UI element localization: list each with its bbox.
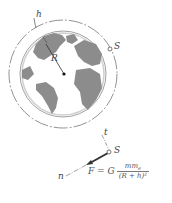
gravity-formula: F = G mme (R + h)² bbox=[88, 162, 149, 180]
label-S-top: S bbox=[114, 42, 120, 51]
label-h: h bbox=[36, 10, 42, 19]
formula-lhs: F = G bbox=[88, 166, 115, 176]
label-S-bottom: S bbox=[114, 146, 120, 155]
altitude-arrow bbox=[34, 18, 36, 28]
satellite-top bbox=[108, 47, 112, 51]
formula-denominator: (R + h)² bbox=[117, 171, 149, 180]
satellite-bottom bbox=[107, 150, 111, 154]
earth-center-dot bbox=[62, 72, 65, 75]
label-t: t bbox=[104, 128, 108, 137]
formula-fraction: mme (R + h)² bbox=[117, 162, 149, 180]
label-R: R bbox=[51, 54, 58, 63]
formula-numerator: mme bbox=[123, 162, 143, 171]
label-n: n bbox=[58, 172, 64, 181]
tangent-axis bbox=[102, 135, 109, 150]
